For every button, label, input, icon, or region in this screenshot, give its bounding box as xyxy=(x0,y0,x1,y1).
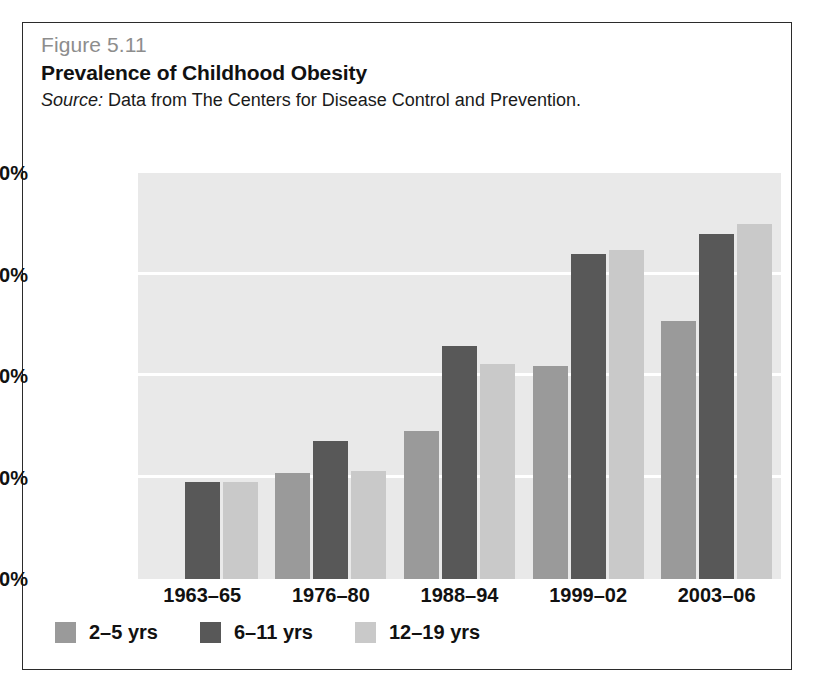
legend-label: 2–5 yrs xyxy=(89,621,158,644)
y-axis-tick-label: 0.00% xyxy=(0,568,28,591)
x-axis-tick-label: 1988–94 xyxy=(421,584,499,607)
legend-item: 12–19 yrs xyxy=(355,621,480,644)
figure-frame: Figure 5.11 Prevalence of Childhood Obes… xyxy=(22,22,792,670)
x-axis-tick-label: 1999–02 xyxy=(549,584,627,607)
x-axis-tick-label: 1963–65 xyxy=(163,584,241,607)
figure-source-text: Data from The Centers for Disease Contro… xyxy=(103,90,581,110)
bar xyxy=(699,234,734,579)
legend-item: 2–5 yrs xyxy=(55,621,158,644)
bar xyxy=(571,254,606,579)
bar-group xyxy=(404,173,515,579)
y-axis-tick-label: 5.00% xyxy=(0,466,28,489)
legend-label: 12–19 yrs xyxy=(389,621,480,644)
bar xyxy=(404,431,439,579)
figure-source: Source: Data from The Centers for Diseas… xyxy=(41,90,771,111)
legend-swatch xyxy=(200,622,221,643)
legend-label: 6–11 yrs xyxy=(234,621,313,644)
x-axis-tick-label: 1976–80 xyxy=(292,584,370,607)
y-axis-tick-label: 20.00% xyxy=(0,162,28,185)
bar-group xyxy=(661,173,772,579)
bar xyxy=(351,471,386,579)
bar xyxy=(533,366,568,579)
y-axis-tick-label: 15.00% xyxy=(0,263,28,286)
figure-header: Figure 5.11 Prevalence of Childhood Obes… xyxy=(41,33,771,111)
chart-plot-area xyxy=(138,173,781,579)
figure-title: Prevalence of Childhood Obesity xyxy=(41,61,771,85)
bar xyxy=(661,321,696,579)
bar xyxy=(275,473,310,579)
y-axis-tick-label: 10.00% xyxy=(0,365,28,388)
bar xyxy=(737,224,772,579)
chart-legend: 2–5 yrs6–11 yrs12–19 yrs xyxy=(55,621,522,644)
bar xyxy=(185,482,220,579)
figure-source-label: Source: xyxy=(41,90,103,110)
bars-layer xyxy=(138,173,781,579)
bar xyxy=(480,364,515,579)
figure-number: Figure 5.11 xyxy=(41,33,771,57)
bar-group xyxy=(275,173,386,579)
x-axis-tick-label: 2003–06 xyxy=(678,584,756,607)
bar-group xyxy=(533,173,644,579)
bar xyxy=(442,346,477,579)
bar xyxy=(313,441,348,579)
bar xyxy=(609,250,644,579)
bar-group xyxy=(147,173,258,579)
legend-swatch xyxy=(55,622,76,643)
bar xyxy=(223,482,258,579)
legend-item: 6–11 yrs xyxy=(200,621,313,644)
legend-swatch xyxy=(355,622,376,643)
